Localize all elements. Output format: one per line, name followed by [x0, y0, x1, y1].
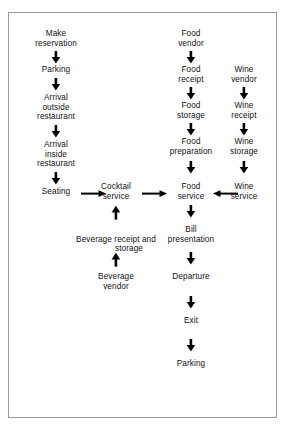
arrow-wine-vendor-to-wine-receipt — [238, 87, 250, 100]
node-food-preparation: Food preparation — [170, 137, 213, 156]
arrow-exit-to-parking — [185, 339, 197, 352]
arrow-wine-receipt-to-wine-storage — [238, 123, 250, 136]
node-food-service: Food service — [178, 182, 205, 201]
arrow-wine-service-to-food-service — [212, 189, 238, 199]
node-beverage-vendor: Beverage vendor — [98, 272, 134, 291]
node-seating: Seating — [42, 187, 70, 197]
node-exit: Exit — [184, 316, 198, 326]
node-parking-top: Parking — [42, 65, 70, 75]
beverage-receipt-line-1: Beverage receipt and — [76, 235, 156, 244]
node-wine-storage: Wine storage — [230, 137, 258, 156]
node-food-receipt: Food receipt — [178, 65, 203, 84]
arrow-make-reservation-to-parking — [50, 51, 62, 64]
arrow-departure-to-exit — [185, 296, 197, 309]
arrow-food-storage-to-food-preparation — [185, 123, 197, 136]
node-cocktail-service: Cocktail service — [101, 182, 131, 201]
arrow-cocktail-service-to-food-service — [142, 189, 168, 199]
node-departure: Departure — [172, 272, 209, 282]
node-make-reservation: Make reservation — [35, 29, 77, 48]
arrow-arrival-inside-to-seating — [50, 172, 62, 185]
arrow-beverage-receipt-to-cocktail-service — [110, 205, 122, 220]
arrow-food-service-to-bill-presentation — [185, 205, 197, 218]
arrow-food-vendor-to-food-receipt — [185, 51, 197, 64]
arrow-beverage-vendor-to-beverage-receipt — [110, 252, 122, 267]
node-wine-vendor: Wine vendor — [231, 65, 257, 84]
node-food-vendor: Food vendor — [178, 29, 204, 48]
arrow-parking-to-arrival-outside — [50, 78, 62, 91]
arrow-arrival-outside-to-arrival-inside — [50, 125, 62, 138]
node-arrival-outside-restaurant: Arrival outside restaurant — [37, 93, 75, 122]
node-arrival-inside-restaurant: Arrival inside restaurant — [37, 140, 75, 169]
diagram-frame: Make reservation Parking Arrival outside… — [8, 12, 277, 418]
node-food-storage: Food storage — [177, 101, 205, 120]
node-parking-bottom: Parking — [177, 359, 205, 369]
node-bill-presentation: Bill presentation — [168, 225, 214, 244]
arrow-wine-storage-to-wine-service — [238, 161, 250, 174]
arrow-food-receipt-to-food-storage — [185, 87, 197, 100]
flowchart-page: Make reservation Parking Arrival outside… — [0, 0, 290, 430]
arrow-bill-presentation-to-departure — [185, 252, 197, 265]
node-wine-receipt: Wine receipt — [231, 101, 256, 120]
arrow-food-preparation-to-food-service — [185, 161, 197, 174]
